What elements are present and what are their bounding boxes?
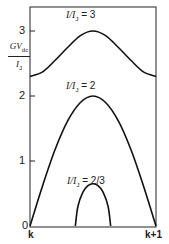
series-label-eq: = 2 — [78, 80, 95, 91]
series-label-eq: = 3 — [78, 9, 95, 20]
plot-frame — [30, 7, 156, 227]
series-label-2-3: I/IJ = 2/3 — [67, 176, 105, 190]
curve-series-1 — [30, 96, 156, 226]
curve-series-2 — [75, 184, 110, 226]
curves — [30, 31, 156, 226]
chart-plot — [0, 0, 169, 244]
x-tick-k-plus-1: k+1 — [145, 230, 162, 240]
series-label-2: I/IJ = 2 — [66, 81, 95, 95]
y-axis-label: GVdc IJ — [8, 41, 30, 73]
ylabel-num-sub: dc — [22, 47, 28, 53]
y-tick-label: 3 — [19, 25, 25, 35]
y-tick-label: 1 — [19, 155, 25, 165]
ylabel-den-sub: J — [19, 65, 22, 71]
series-label-3: I/IJ = 3 — [66, 10, 95, 24]
series-label-eq: = 2/3 — [79, 175, 104, 186]
y-tick-label: 2 — [19, 90, 25, 100]
ylabel-num: GV — [10, 41, 22, 51]
curve-series-0 — [30, 31, 156, 77]
x-tick-k: k — [28, 230, 34, 240]
y-ticks — [30, 31, 35, 161]
